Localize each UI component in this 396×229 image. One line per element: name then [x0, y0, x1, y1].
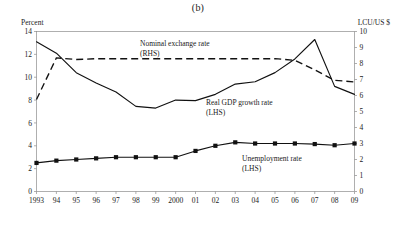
x-tick-label: 96	[92, 196, 100, 205]
x-tick-label: 2000	[168, 196, 183, 205]
x-tick-label: 05	[271, 196, 279, 205]
data-point-marker	[233, 140, 237, 144]
right-tick-label: 10	[360, 27, 368, 36]
x-tick-label: 09	[351, 196, 359, 205]
series-nominal-exchange-rate	[37, 58, 355, 100]
right-tick-label: 2	[360, 155, 364, 164]
data-point-marker	[74, 157, 78, 161]
series-annotation-axis: (RHS)	[140, 49, 160, 58]
left-tick-label: 4	[28, 141, 32, 150]
data-point-marker	[313, 142, 317, 146]
x-tick-label: 95	[73, 196, 81, 205]
right-tick-label: 5	[360, 107, 364, 116]
data-point-marker	[273, 141, 277, 145]
data-point-marker	[174, 155, 178, 159]
right-axis-ticks: 012345678910	[355, 27, 368, 196]
left-tick-label: 0	[28, 187, 32, 196]
x-tick-label: 08	[331, 196, 339, 205]
x-tick-label: 97	[112, 196, 120, 205]
series-annotation-label: Unemployment rate	[242, 154, 302, 163]
data-point-marker	[154, 155, 158, 159]
left-tick-label: 8	[28, 96, 32, 105]
series-group	[34, 40, 356, 166]
left-tick-label: 10	[25, 73, 33, 82]
data-point-marker	[352, 141, 356, 145]
chart-plot: 02468101214 012345678910 199394959697989…	[0, 0, 396, 229]
right-tick-label: 9	[360, 43, 364, 52]
left-tick-label: 12	[25, 50, 33, 59]
left-tick-label: 14	[25, 27, 33, 36]
right-tick-label: 3	[360, 139, 364, 148]
left-axis-ticks: 02468101214	[25, 27, 37, 196]
right-tick-label: 8	[360, 59, 364, 68]
right-tick-label: 0	[360, 187, 364, 196]
data-point-marker	[193, 149, 197, 153]
data-point-marker	[213, 144, 217, 148]
data-point-marker	[253, 141, 257, 145]
x-tick-label: 94	[53, 196, 61, 205]
right-tick-label: 6	[360, 91, 364, 100]
series-annotation-label: Real GDP growth rate	[206, 98, 273, 107]
figure-container: (b) Percent LCU/US $ 02468101214 0123456…	[0, 0, 396, 229]
left-tick-label: 2	[28, 164, 32, 173]
series-annotation-axis: (LHS)	[242, 164, 262, 173]
right-tick-label: 7	[360, 75, 364, 84]
data-point-marker	[34, 161, 38, 165]
series-real-gdp-growth-rate	[37, 40, 355, 109]
x-axis-ticks: 19939495969798992000010203040506070809	[29, 192, 359, 206]
x-tick-label: 03	[232, 196, 240, 205]
right-tick-label: 4	[360, 123, 364, 132]
data-point-marker	[114, 155, 118, 159]
right-tick-label: 1	[360, 171, 364, 180]
x-tick-label: 07	[311, 196, 319, 205]
x-tick-label: 06	[291, 196, 299, 205]
left-tick-label: 6	[28, 119, 32, 128]
plot-frame	[37, 32, 355, 192]
series-annotation-axis: (LHS)	[206, 108, 226, 117]
x-tick-label: 04	[251, 196, 259, 205]
data-point-marker	[54, 159, 58, 163]
x-tick-label: 98	[132, 196, 140, 205]
x-tick-label: 99	[152, 196, 160, 205]
data-point-marker	[94, 156, 98, 160]
x-tick-label: 1993	[29, 196, 44, 205]
data-point-marker	[333, 143, 337, 147]
series-annotation-label: Nominal exchange rate	[140, 39, 210, 48]
x-tick-label: 02	[212, 196, 220, 205]
data-point-marker	[293, 141, 297, 145]
x-tick-label: 01	[192, 196, 200, 205]
data-point-marker	[134, 155, 138, 159]
